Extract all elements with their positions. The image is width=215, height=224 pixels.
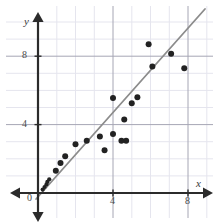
data-point [110,95,116,101]
data-point [97,134,103,140]
data-point [129,100,135,106]
scatter-plot-figure: 0 4 8 4 8 x y [0,0,215,224]
x-tick-label-4: 4 [110,195,115,206]
data-point [110,131,116,137]
data-point [123,138,129,144]
y-tick-label-4: 4 [22,118,27,129]
data-point [168,51,174,57]
data-point [102,147,108,153]
data-point [149,63,155,69]
trend-line [36,9,205,199]
origin-label: 0 [27,192,32,203]
data-point [134,94,140,100]
data-point [47,177,51,181]
data-point [53,168,59,174]
y-axis-label: y [24,15,29,27]
data-point [73,141,79,147]
data-point [121,116,127,122]
data-point [181,65,187,71]
data-point [58,160,64,166]
x-tick-label-8: 8 [185,195,190,206]
data-point [62,153,68,159]
scatter-plot-canvas [0,0,215,224]
data-point [84,138,90,144]
x-axis-label: x [196,177,201,189]
data-point [146,41,152,47]
y-tick-label-8: 8 [22,49,27,60]
